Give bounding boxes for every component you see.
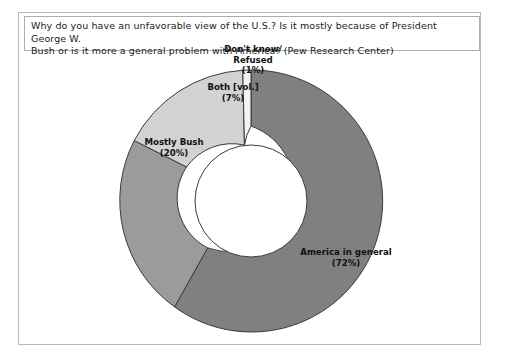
slice-label-both-vol: Both [vol.] (7%) — [189, 82, 277, 103]
slice-label-mostly-bush: Mostly Bush (20%) — [126, 137, 222, 158]
slice-label-both-name: Both [vol.] — [189, 82, 277, 93]
chart-figure: Why do you have an unfavorable view of t… — [0, 0, 507, 361]
slice-label-dont-know-refused: Don't know/ Refused (1%) — [196, 44, 310, 76]
slice-label-america-value: (72%) — [286, 258, 406, 269]
donut-hole — [195, 145, 307, 257]
slice-label-dont-know-line-1: Don't know/ — [196, 44, 310, 55]
slice-label-dont-know-line-2: Refused — [196, 55, 310, 66]
slice-label-america-name: America in general — [286, 247, 406, 258]
slice-label-bush-value: (20%) — [126, 148, 222, 159]
slice-label-bush-name: Mostly Bush — [126, 137, 222, 148]
slice-label-both-value: (7%) — [189, 93, 277, 104]
slice-label-america-in-general: America in general (72%) — [286, 247, 406, 268]
slice-label-dont-know-value: (1%) — [196, 65, 310, 76]
